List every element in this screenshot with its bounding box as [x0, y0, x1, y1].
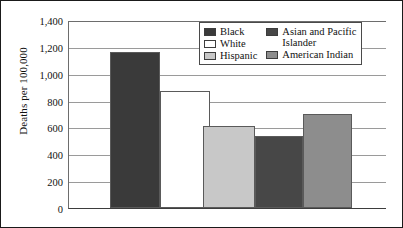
- bar: [110, 52, 160, 208]
- y-tick-label: 400: [47, 150, 63, 161]
- y-axis-tick-labels: 1,4001,2001,0008006004002000: [15, 21, 63, 209]
- y-tick-label: 0: [58, 204, 63, 215]
- y-tick-label: 200: [47, 177, 63, 188]
- bar: [203, 126, 255, 208]
- legend-column: BlackWhiteHispanic: [204, 26, 257, 61]
- y-tick-label: 1,000: [39, 69, 63, 80]
- y-tick-label: 800: [47, 96, 63, 107]
- legend-swatch-icon: [204, 40, 216, 48]
- legend-label: Hispanic: [220, 50, 257, 61]
- legend-label: Black: [220, 26, 245, 37]
- legend-swatch-icon: [204, 52, 216, 60]
- legend-item: White: [204, 38, 257, 49]
- legend-item: Asian and Pacific Islander: [266, 26, 356, 48]
- legend-column: Asian and Pacific IslanderAmerican India…: [266, 26, 356, 61]
- legend-item: Hispanic: [204, 50, 257, 61]
- bar: [255, 136, 303, 209]
- bar: [303, 114, 352, 208]
- legend-label: American Indian: [282, 49, 353, 60]
- legend-label: Asian and Pacific Islander: [282, 26, 356, 48]
- legend-item: American Indian: [266, 49, 356, 60]
- y-tick-label: 1,200: [39, 42, 63, 53]
- legend-item: Black: [204, 26, 257, 37]
- bar-chart-figure: Deaths per 100,000 1,4001,2001,000800600…: [0, 0, 403, 228]
- y-tick-label: 1,400: [39, 16, 63, 27]
- legend-swatch-icon: [204, 28, 216, 36]
- legend-label: White: [220, 38, 246, 49]
- legend-swatch-icon: [266, 51, 278, 59]
- y-tick-label: 600: [47, 123, 63, 134]
- legend-swatch-icon: [266, 28, 278, 36]
- chart-legend: BlackWhiteHispanicAsian and Pacific Isla…: [199, 22, 362, 65]
